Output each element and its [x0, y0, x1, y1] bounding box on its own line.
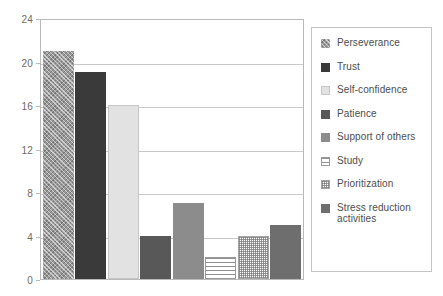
y-axis-tick-label: 8 [27, 188, 33, 199]
bar-prioritization [238, 236, 269, 280]
legend-item[interactable]: Perseverance [321, 37, 423, 49]
legend-item-label: Perseverance [337, 37, 400, 49]
legend-item-label: Self-confidence [337, 84, 407, 96]
bar-stress-reduction-activities [270, 225, 301, 279]
bar-series [41, 20, 303, 279]
legend-swatch-icon [321, 63, 330, 72]
y-axis-tick-mark [36, 280, 40, 281]
legend-item-label: Trust [337, 61, 360, 73]
legend-swatch-icon [321, 157, 330, 166]
legend-item-label: Prioritization [337, 178, 393, 190]
legend-item[interactable]: Trust [321, 61, 423, 73]
legend-item-label: Study [337, 155, 363, 167]
bar-self-confidence [108, 105, 139, 279]
legend-swatch-icon [321, 110, 330, 119]
bar-perseverance [43, 51, 74, 279]
chart-legend: PerseveranceTrustSelf-confidencePatience… [311, 27, 432, 272]
legend-item-label: Support of others [337, 131, 415, 143]
y-axis: 04812162024 [0, 0, 40, 296]
bar-study [205, 257, 236, 279]
legend-swatch-icon [321, 86, 330, 95]
legend-item[interactable]: Stress reduction activities [321, 202, 423, 225]
y-axis-tick-label: 24 [21, 14, 33, 25]
bar-trust [75, 72, 106, 279]
legend-item-label: Patience [337, 108, 377, 120]
legend-item-label: Stress reduction activities [337, 202, 423, 225]
legend-swatch-icon [321, 180, 330, 189]
legend-item[interactable]: Prioritization [321, 178, 423, 190]
plot-area [40, 19, 304, 280]
legend-item[interactable]: Study [321, 155, 423, 167]
legend-item[interactable]: Patience [321, 108, 423, 120]
bar-support-of-others [173, 203, 204, 279]
y-axis-tick-label: 20 [21, 57, 33, 68]
legend-item[interactable]: Support of others [321, 131, 423, 143]
legend-item[interactable]: Self-confidence [321, 84, 423, 96]
y-axis-tick-label: 4 [27, 231, 33, 242]
y-axis-tick-label: 16 [21, 101, 33, 112]
legend-swatch-icon [321, 204, 330, 213]
legend-swatch-icon [321, 39, 330, 48]
legend-swatch-icon [321, 133, 330, 142]
bar-patience [140, 236, 171, 280]
y-axis-tick-label: 12 [21, 144, 33, 155]
bar-chart-figure: 04812162024 PerseveranceTrustSelf-confid… [0, 0, 443, 296]
y-axis-tick-label: 0 [27, 275, 33, 286]
